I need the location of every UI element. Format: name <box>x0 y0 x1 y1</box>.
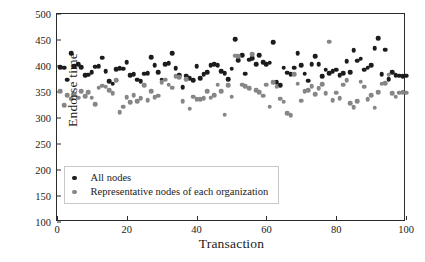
data-point <box>383 48 388 53</box>
data-point <box>320 82 325 87</box>
data-point <box>93 102 98 107</box>
x-axis-tick-mark <box>406 216 407 220</box>
data-point <box>215 63 220 68</box>
data-point <box>222 113 227 118</box>
data-point <box>145 98 150 103</box>
data-point <box>376 36 381 41</box>
data-point <box>302 72 307 77</box>
data-point <box>306 78 311 83</box>
data-point <box>282 65 287 70</box>
legend-marker-icon <box>72 176 77 181</box>
data-point <box>257 53 262 58</box>
data-point <box>219 89 224 94</box>
data-point <box>320 74 325 79</box>
data-point <box>355 99 360 104</box>
data-point <box>170 86 175 91</box>
y-axis-tick-label: 400 <box>21 61 57 72</box>
data-point <box>138 96 143 101</box>
data-point <box>226 83 231 88</box>
data-point <box>243 72 248 77</box>
y-axis-tick-mark <box>57 40 61 41</box>
data-point <box>327 39 332 44</box>
data-point <box>152 63 157 68</box>
data-point <box>205 70 210 75</box>
data-point <box>233 37 238 42</box>
data-point <box>173 66 178 71</box>
data-point <box>299 63 304 68</box>
data-point <box>365 97 370 102</box>
y-axis-tick-mark <box>57 222 61 223</box>
y-axis-tick-label: 300 <box>21 113 57 124</box>
data-point <box>313 92 318 97</box>
data-point <box>149 55 154 60</box>
data-point <box>58 89 63 94</box>
x-axis-tick-label: 40 <box>191 224 202 235</box>
y-axis-tick-label: 350 <box>21 87 57 98</box>
data-point <box>215 82 220 87</box>
y-axis-tick-mark <box>57 170 61 171</box>
data-point <box>180 85 185 90</box>
data-point <box>344 78 349 83</box>
data-point <box>316 62 321 67</box>
data-point <box>268 104 273 109</box>
data-point <box>313 54 318 59</box>
data-point <box>83 94 88 99</box>
data-point <box>97 64 102 69</box>
data-point <box>212 93 217 98</box>
y-axis-tick-mark <box>57 118 61 119</box>
y-axis-tick-mark <box>57 144 61 145</box>
data-point <box>128 100 133 105</box>
data-point <box>369 93 374 98</box>
data-point <box>163 77 168 82</box>
data-point <box>292 65 297 70</box>
data-point <box>149 89 154 94</box>
chart-legend: All nodes Representative nodes of each o… <box>64 166 279 204</box>
legend-marker-icon <box>72 190 77 195</box>
data-point <box>330 98 335 103</box>
y-axis-tick-label: 200 <box>21 165 57 176</box>
data-point <box>114 78 119 83</box>
plot-area: 100150200250300350400450500 020406080100… <box>56 13 405 221</box>
data-point <box>156 70 161 75</box>
data-point <box>369 63 374 68</box>
data-point <box>299 99 304 104</box>
y-axis-tick-mark <box>57 196 61 197</box>
data-point <box>289 113 294 118</box>
data-point <box>386 73 391 78</box>
x-axis-tick-mark <box>127 216 128 220</box>
data-point <box>376 90 381 95</box>
data-point <box>156 93 161 98</box>
data-point <box>404 90 409 95</box>
data-point <box>131 93 136 98</box>
data-point <box>229 66 234 71</box>
data-point <box>90 95 95 100</box>
data-point <box>180 99 185 104</box>
data-point <box>184 77 189 82</box>
data-point <box>187 106 192 111</box>
data-point <box>383 81 388 86</box>
data-point <box>362 85 367 90</box>
data-point <box>348 70 353 75</box>
y-axis-tick-label: 250 <box>21 139 57 150</box>
data-point <box>247 86 252 91</box>
data-point <box>125 60 130 65</box>
data-point <box>404 74 409 79</box>
data-point <box>334 90 339 95</box>
legend-item-label: Representative nodes of each organizatio… <box>91 187 269 198</box>
data-point <box>271 40 276 45</box>
x-axis-tick-mark <box>57 216 58 220</box>
data-point <box>372 46 377 51</box>
data-point <box>125 95 130 100</box>
data-point <box>264 82 269 87</box>
data-point <box>275 85 280 90</box>
data-point <box>341 71 346 76</box>
y-axis-tick-label: 450 <box>21 35 57 46</box>
data-point <box>296 81 301 86</box>
data-point <box>358 56 363 61</box>
data-point <box>250 56 255 61</box>
x-axis-tick-mark <box>336 216 337 220</box>
data-point <box>351 105 356 110</box>
data-point <box>254 62 259 67</box>
scatter-chart-figure: 100150200250300350400450500 020406080100… <box>0 0 425 262</box>
data-point <box>393 94 398 99</box>
